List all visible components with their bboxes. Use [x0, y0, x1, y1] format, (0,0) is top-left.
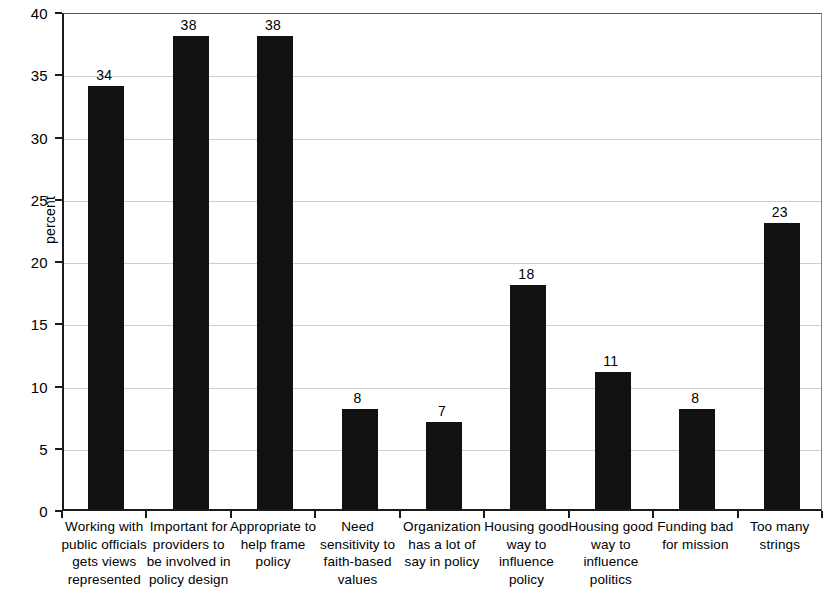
bar — [342, 409, 378, 509]
x-axis-tick-mark — [821, 511, 823, 518]
x-axis-label-line: represented — [58, 571, 150, 589]
x-axis-tick-mark — [61, 511, 63, 518]
x-axis-label-line: policy design — [142, 571, 234, 589]
bar — [510, 285, 546, 509]
x-axis-label-line: faith-based — [311, 553, 403, 571]
x-axis-label-line: way to — [480, 536, 572, 554]
x-axis-label-line: Funding bad — [649, 518, 741, 536]
x-axis-category-label: Important forproviders tobe involved inp… — [142, 518, 234, 588]
x-axis-label-line: Working with — [58, 518, 150, 536]
x-axis-label-line: Organization — [396, 518, 488, 536]
x-axis-label-line: be involved in — [142, 553, 234, 571]
x-axis-label-line: providers to — [142, 536, 234, 554]
y-axis-tick-label: 35 — [8, 67, 48, 84]
x-axis-label-line: policy — [480, 571, 572, 589]
x-axis-label-line: strings — [734, 536, 826, 554]
bar — [257, 36, 293, 509]
bar-value-label: 8 — [328, 390, 388, 406]
y-axis-tick-mark — [55, 261, 62, 263]
y-axis-tick-mark — [55, 74, 62, 76]
x-axis-label-line: influence — [480, 553, 572, 571]
x-axis-tick-mark — [483, 511, 485, 518]
x-axis-category-label: Housing goodway toinfluencepolicy — [480, 518, 572, 588]
x-axis-label-line: has a lot of — [396, 536, 488, 554]
bar-value-label: 7 — [412, 403, 472, 419]
x-axis-label-line: sensitivity to — [311, 536, 403, 554]
bar — [173, 36, 209, 509]
bar-value-label: 38 — [159, 17, 219, 33]
x-axis-tick-mark — [399, 511, 401, 518]
y-axis-tick-label: 10 — [8, 378, 48, 395]
x-axis-label-line: gets views — [58, 553, 150, 571]
x-axis-label-line: influence — [565, 553, 657, 571]
bar-value-label: 34 — [74, 67, 134, 83]
x-axis-category-label: Working withpublic officialsgets viewsre… — [58, 518, 150, 588]
x-axis-label-line: Too many — [734, 518, 826, 536]
y-axis-tick-mark — [55, 386, 62, 388]
x-axis-category-label: Housing goodway toinfluencepolitics — [565, 518, 657, 588]
x-axis-category-label: Needsensitivity tofaith-basedvalues — [311, 518, 403, 588]
y-axis-tick-mark — [55, 323, 62, 325]
x-axis-tick-mark — [145, 511, 147, 518]
x-axis-label-line: way to — [565, 536, 657, 554]
x-axis-tick-mark — [314, 511, 316, 518]
y-axis-tick-mark — [55, 199, 62, 201]
y-axis-tick-label: 15 — [8, 316, 48, 333]
x-axis-category-label: Funding badfor mission — [649, 518, 741, 553]
x-axis-label-line: policy — [227, 553, 319, 571]
bar-value-label: 11 — [581, 353, 641, 369]
x-axis-tick-mark — [568, 511, 570, 518]
bar — [88, 86, 124, 509]
x-axis-label-line: for mission — [649, 536, 741, 554]
bar-value-label: 23 — [750, 204, 810, 220]
bar-value-label: 38 — [243, 17, 303, 33]
x-axis-label-line: Housing good — [480, 518, 572, 536]
x-axis-label-line: say in policy — [396, 553, 488, 571]
bar-chart: percent 0510152025303540 343838871811823… — [0, 0, 830, 591]
x-axis-category-label: Organizationhas a lot ofsay in policy — [396, 518, 488, 571]
bar — [764, 223, 800, 509]
x-axis-label-line: help frame — [227, 536, 319, 554]
x-axis-category-label: Too manystrings — [734, 518, 826, 553]
y-axis-tick-label: 25 — [8, 191, 48, 208]
y-axis-tick-mark — [55, 448, 62, 450]
x-axis-tick-mark — [652, 511, 654, 518]
x-axis-label-line: values — [311, 571, 403, 589]
y-axis-tick-label: 5 — [8, 440, 48, 457]
bar-value-label: 18 — [496, 266, 556, 282]
x-axis-tick-mark — [230, 511, 232, 518]
y-axis-tick-label: 30 — [8, 129, 48, 146]
bar-value-label: 8 — [665, 390, 725, 406]
plot-area — [62, 13, 822, 511]
y-axis-tick-label: 20 — [8, 254, 48, 271]
x-axis-label-line: public officials — [58, 536, 150, 554]
bar — [679, 409, 715, 509]
x-axis-label-line: politics — [565, 571, 657, 589]
x-axis-label-line: Need — [311, 518, 403, 536]
x-axis-label-line: Appropriate to — [227, 518, 319, 536]
x-axis-label-line: Housing good — [565, 518, 657, 536]
y-axis-tick-label: 0 — [8, 503, 48, 520]
x-axis-label-line: Important for — [142, 518, 234, 536]
y-axis-tick-label: 40 — [8, 5, 48, 22]
y-axis-tick-mark — [55, 137, 62, 139]
x-axis-tick-mark — [737, 511, 739, 518]
bar — [595, 372, 631, 509]
y-axis-tick-mark — [55, 12, 62, 14]
x-axis-category-label: Appropriate tohelp framepolicy — [227, 518, 319, 571]
bar — [426, 422, 462, 509]
